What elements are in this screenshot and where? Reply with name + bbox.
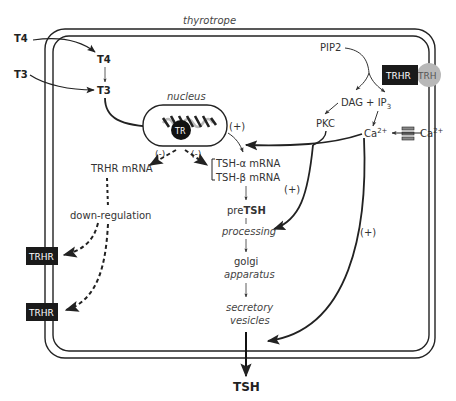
nucleus-pos-arrow: [228, 133, 243, 152]
cell-label: thyrotrope: [183, 15, 236, 26]
thyrotrope-diagram: thyrotrope T4 T3 T4 T3 nucleus TR (+) (-…: [0, 0, 456, 401]
pkc-label: PKC: [316, 118, 335, 129]
pos-nucleus-label: (+): [229, 121, 245, 132]
pip2-label: PIP2: [320, 42, 341, 53]
nucleus-label: nucleus: [167, 91, 206, 102]
pretsh-label: preTSH: [227, 205, 266, 216]
tr-label: TR: [174, 127, 186, 136]
trhr-receptor-label: TRHR: [385, 71, 411, 81]
t4-inside-label: T4: [97, 54, 111, 65]
t4-outside-label: T4: [14, 33, 28, 44]
t4-entry-arrow: [33, 39, 95, 53]
down-regulation-arrow-1: [64, 223, 98, 255]
down-regulation-arrow-2: [66, 224, 108, 310]
pip2-to-dag-arrow: [356, 73, 369, 90]
secretory-label: secretory: [226, 302, 274, 313]
t3-entry-arrow: [30, 75, 94, 90]
pos-ca-label: (+): [360, 227, 376, 238]
pip2-branch-path: [345, 48, 369, 73]
membrane-trhr-1-label: TRHR: [28, 252, 54, 262]
vesicles-label: vesicles: [230, 315, 270, 326]
ca-inside-label: Ca2+: [364, 127, 388, 139]
tsh-mrna-bracket: [212, 159, 215, 180]
tsh-beta-mrna-label: TSH-β mRNA: [215, 172, 280, 183]
ca-to-tsh-mrna-arrow: [246, 134, 362, 145]
ca-outside-label: Ca2+: [420, 127, 444, 139]
t3-outside-label: T3: [14, 69, 28, 80]
ip3-to-ca-arrow: [373, 111, 378, 126]
down-regulation-path-main: [107, 178, 108, 207]
dag-to-pkc-arrow: [325, 103, 338, 114]
dag-ip3-label: DAG + IP3: [341, 97, 391, 111]
apparatus-label: apparatus: [224, 269, 275, 280]
down-regulation-label: down-regulation: [70, 210, 151, 221]
pos-pkc-label: (+): [284, 184, 300, 195]
t3-inside-label: T3: [97, 85, 111, 96]
membrane-trhr-2-label: TRHR: [28, 308, 54, 318]
tsh-alpha-mrna-label: TSH-α mRNA: [215, 158, 281, 169]
ca-to-vesicles-arrow: [268, 138, 365, 341]
processing-label: processing: [221, 226, 276, 237]
trhr-mrna-label: TRHR mRNA: [90, 163, 153, 174]
tsh-output-label: TSH: [233, 380, 260, 394]
trh-label: TRH: [417, 71, 437, 81]
golgi-label: golgi: [234, 256, 258, 267]
